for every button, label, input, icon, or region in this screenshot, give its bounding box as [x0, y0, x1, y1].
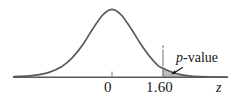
x-axis-tick-label-critical-value: 1.60: [146, 80, 173, 95]
normal-curve: [14, 9, 227, 77]
pvalue-label-suffix: -value: [183, 50, 218, 65]
pvalue-label-p: p: [176, 50, 183, 65]
x-axis-tick-label-zero: 0: [104, 80, 112, 95]
x-axis-variable-label: z: [216, 81, 221, 95]
critical-value-top-dot: [162, 46, 164, 48]
pvalue-annotation-label: p-value: [176, 51, 218, 65]
